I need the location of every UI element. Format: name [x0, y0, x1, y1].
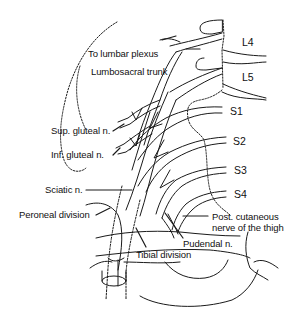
L5-root-lower [176, 74, 222, 100]
femur-cut-end [102, 276, 126, 286]
label-inf-gluteal: Inf. gluteal n. [51, 149, 104, 160]
L4-root-lower [176, 39, 222, 52]
sacral-plexus-diagram: L4 L5 S1 S2 S3 S4 To lumbar plexus Lumbo… [0, 0, 304, 325]
label-S2: S2 [233, 136, 246, 147]
bundle-zigzag-3 [160, 170, 174, 188]
label-L5: L5 [242, 72, 253, 83]
vertebra-L5 [196, 58, 222, 70]
L4-root-upper [170, 33, 222, 46]
branch-right [124, 262, 180, 263]
label-S3: S3 [234, 165, 247, 176]
label-tibial-division: Tibial division [136, 249, 191, 260]
leader-peroneal [96, 208, 110, 215]
label-lumbosacral-trunk: Lumbosacral trunk [91, 66, 167, 77]
label-S4: S4 [234, 189, 247, 200]
sciatic-bifurcation [108, 258, 124, 261]
label-sup-gluteal: Sup. gluteal n. [51, 125, 110, 136]
leader-tibial [136, 228, 146, 247]
L5-transverse-upper [223, 84, 266, 98]
L4-transverse-upper [223, 50, 266, 56]
label-pudendal: Pudendal n. [183, 238, 233, 249]
sup-gluteal-nerve-upper [118, 100, 160, 122]
ilium-inner-outline [77, 66, 86, 130]
inf-gluteal-nerve-upper [116, 126, 150, 148]
label-S1: S1 [230, 106, 243, 117]
label-to-lumbar-plexus: To lumbar plexus [88, 48, 158, 59]
label-post-cutaneous-1: Post. cutaneous [212, 211, 279, 222]
label-peroneal-division: Peroneal division [19, 209, 90, 220]
sup-gluteal-loop [132, 108, 142, 120]
label-post-cutaneous-2: nerve of the thigh [212, 222, 284, 233]
vertebra-upper [200, 20, 222, 34]
label-sciatic: Sciatic n. [45, 184, 83, 195]
L4-transverse-lower [223, 62, 266, 64]
sciatic-left-edge [106, 186, 122, 300]
label-L4: L4 [242, 37, 253, 48]
L5-root-upper [170, 68, 222, 92]
tuberosity-branch [254, 260, 278, 268]
lower-pelvis-curve [140, 270, 258, 306]
